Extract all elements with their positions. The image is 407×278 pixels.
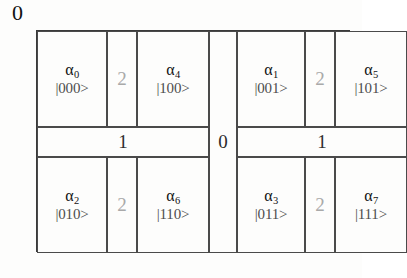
cell-index: 5: [373, 69, 378, 80]
band-right-split-label: 1: [237, 127, 407, 157]
cell-ket: |001>: [255, 80, 288, 97]
divider-digit: 0: [218, 131, 228, 153]
divider-inner-bottom-right: 2: [305, 157, 335, 253]
divider-digit: 2: [315, 194, 325, 216]
cell-alpha-6: α6 |110>: [137, 157, 209, 253]
divider-inner-top-right: 2: [305, 31, 335, 127]
band-digit: 1: [317, 131, 327, 153]
cell-symbol: α6: [166, 187, 180, 205]
cell-symbol: α1: [264, 61, 278, 79]
partition-grid: α0 |000> 2 α4 |100> α1 |001> 2 α5 |101> …: [36, 30, 350, 252]
cell-alpha-5: α5 |101>: [335, 31, 407, 127]
cell-index: 0: [74, 69, 79, 80]
cell-index: 6: [175, 195, 180, 206]
cell-alpha-2: α2 |010>: [37, 157, 107, 253]
cell-index: 1: [273, 69, 278, 80]
cell-ket: |000>: [56, 80, 89, 97]
divider-digit: 2: [315, 68, 325, 90]
divider-inner-top-left: 2: [107, 31, 137, 127]
axis-label-top: 0: [12, 2, 23, 24]
cell-ket: |010>: [56, 206, 89, 223]
cell-symbol: α5: [364, 61, 378, 79]
cell-index: 2: [74, 195, 79, 206]
cell-symbol: α3: [264, 187, 278, 205]
cell-ket: |101>: [355, 80, 388, 97]
cell-symbol: α4: [166, 61, 180, 79]
cell-ket: |110>: [157, 206, 189, 223]
band-left-split-label: 1: [37, 127, 209, 157]
cell-symbol: α2: [65, 187, 79, 205]
band-digit: 1: [118, 131, 128, 153]
cell-alpha-3: α3 |011>: [237, 157, 305, 253]
cell-alpha-1: α1 |001>: [237, 31, 305, 127]
cell-ket: |011>: [255, 206, 287, 223]
cell-ket: |100>: [157, 80, 190, 97]
cell-alpha-4: α4 |100>: [137, 31, 209, 127]
cell-symbol: α0: [65, 61, 79, 79]
divider-digit: 2: [117, 68, 127, 90]
cell-index: 4: [175, 69, 180, 80]
divider-inner-bottom-left: 2: [107, 157, 137, 253]
cell-alpha-0: α0 |000>: [37, 31, 107, 127]
cell-alpha-7: α7 |111>: [335, 157, 407, 253]
divider-digit: 2: [117, 194, 127, 216]
cell-index: 3: [273, 195, 278, 206]
cell-index: 7: [373, 195, 378, 206]
cell-symbol: α7: [364, 187, 378, 205]
divider-center-vertical: 0: [209, 31, 237, 253]
cell-ket: |111>: [355, 206, 387, 223]
